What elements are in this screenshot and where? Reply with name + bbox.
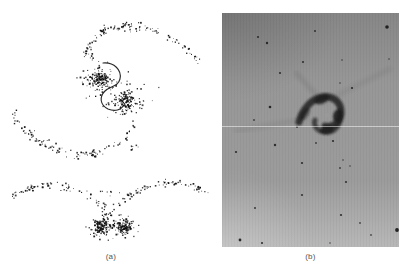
orbit-curve [101, 63, 124, 110]
corner-lightening [222, 167, 312, 247]
merger-inner-gap [324, 112, 329, 117]
panel-a-label: (a) [0, 252, 222, 261]
panel-b-label: (b) [222, 252, 399, 261]
scatter-dots [12, 22, 208, 241]
plate-seam-line [222, 126, 399, 127]
panel-a-simulation-plot [0, 0, 222, 276]
corner-shading [222, 13, 342, 103]
figure-page: (a) (b) [0, 0, 414, 276]
panel-b-photograph [222, 13, 399, 247]
